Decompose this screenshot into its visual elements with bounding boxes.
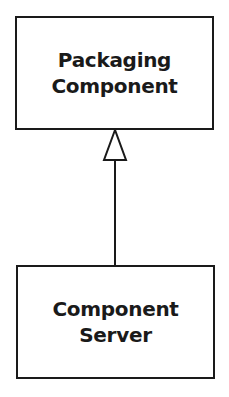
packaging-component-box: Packaging Component — [15, 16, 214, 130]
node-label-line: Component — [52, 296, 178, 322]
hollow-triangle-arrowhead-icon — [104, 130, 126, 160]
node-label-line: Component — [51, 73, 177, 99]
node-label-line: Packaging — [58, 47, 171, 73]
node-label-line: Server — [79, 322, 152, 348]
component-server-box: Component Server — [16, 265, 215, 379]
